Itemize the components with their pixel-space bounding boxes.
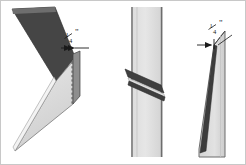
end-edge-strip (73, 51, 80, 104)
right-dim-denominator: 4 (213, 28, 217, 35)
panel-middle-front-elevation-view (125, 7, 165, 157)
illustration-canvas: 1 4 " (1, 1, 245, 164)
lower-flange-face (15, 61, 73, 151)
end-edge-face (73, 51, 80, 104)
right-dim-unit: " (219, 18, 223, 28)
left-dim-unit: " (75, 27, 79, 37)
panel-right-edge-profile-view: 1 4 " (197, 18, 232, 157)
panel-left-isometric-view: 1 4 " (12, 7, 89, 151)
left-dim-denominator: 4 (69, 37, 73, 44)
right-dimension-label: 1 4 " (209, 18, 224, 35)
technical-illustration: 1 4 " (0, 0, 246, 165)
lower-light-flange (13, 61, 73, 151)
